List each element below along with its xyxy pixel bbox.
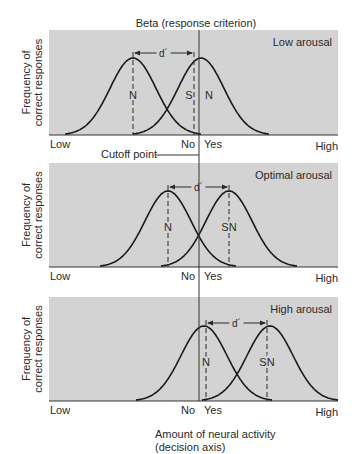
diagram-canvas: Beta (response criterion) Frequency ofco… bbox=[0, 0, 359, 454]
arousal-level-label: Low arousal bbox=[273, 36, 332, 48]
signal-noise-label: SN bbox=[259, 356, 274, 368]
panel-optimal-arousal: Frequency ofcorrect responsesd´NSNOptima… bbox=[20, 163, 338, 284]
panel-low-arousal: Frequency ofcorrect responsesd´NSNLow ar… bbox=[20, 30, 338, 152]
x-label-yes: Yes bbox=[204, 138, 222, 150]
beta-title: Beta (response criterion) bbox=[136, 17, 256, 29]
x-label-low: Low bbox=[50, 138, 70, 150]
noise-label: N bbox=[164, 221, 172, 233]
d-prime-label: d´ bbox=[159, 48, 168, 59]
arousal-level-label: Optimal arousal bbox=[255, 169, 332, 181]
noise-label: N bbox=[202, 356, 210, 368]
signal-noise-label: SN bbox=[221, 221, 236, 233]
x-label-high: High bbox=[315, 272, 338, 284]
noise-label: N bbox=[129, 89, 137, 101]
x-label-yes: Yes bbox=[204, 270, 222, 282]
x-label-no: No bbox=[181, 270, 195, 282]
signal-label-n: N bbox=[205, 89, 213, 101]
y-axis-label-line2: correct responses bbox=[32, 171, 44, 259]
y-axis-label-line1: Frequency of bbox=[20, 182, 32, 247]
y-axis-label-line2: correct responses bbox=[32, 38, 44, 126]
panel-high-arousal: Frequency ofcorrect responsesd´NSNHigh a… bbox=[20, 297, 338, 418]
cutoff-point-label: Cutoff point bbox=[101, 148, 157, 160]
y-axis-label-line2: correct responses bbox=[32, 305, 44, 393]
x-label-no: No bbox=[181, 404, 195, 416]
x-label-high: High bbox=[315, 140, 338, 152]
x-axis-title-line2: (decision axis) bbox=[155, 441, 225, 453]
signal-detection-diagram: Beta (response criterion) Frequency ofco… bbox=[0, 0, 359, 454]
arousal-level-label: High arousal bbox=[270, 303, 332, 315]
x-label-low: Low bbox=[50, 270, 70, 282]
x-label-low: Low bbox=[50, 404, 70, 416]
signal-label-s: S bbox=[185, 89, 192, 101]
d-prime-label: d´ bbox=[232, 318, 241, 329]
x-label-high: High bbox=[315, 406, 338, 418]
x-axis-title-line1: Amount of neural activity bbox=[155, 428, 276, 440]
y-axis-label-line1: Frequency of bbox=[20, 49, 32, 114]
x-label-no: No bbox=[181, 138, 195, 150]
x-label-yes: Yes bbox=[204, 404, 222, 416]
y-axis-label-line1: Frequency of bbox=[20, 316, 32, 381]
